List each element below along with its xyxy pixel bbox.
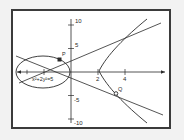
tangent-line-1 <box>16 56 163 115</box>
point-P-marker <box>58 58 62 62</box>
x-tick-label-4: 4 <box>123 76 127 82</box>
x-axis-arrow <box>161 70 165 74</box>
y-tick-label-minus10: -10 <box>74 120 83 126</box>
point-Q-marker <box>114 92 118 96</box>
y-tick-label-5: 5 <box>75 42 79 48</box>
plot-frame: 10 5 -5 -10 2 4 x²+2y²=5 P Q <box>11 9 171 129</box>
axes-group <box>17 19 165 123</box>
x-tick-label-2: 2 <box>96 76 100 82</box>
ellipse-equation-label: x²+2y²=5 <box>32 76 53 82</box>
figure-container: 10 5 -5 -10 2 4 x²+2y²=5 P Q <box>0 0 184 140</box>
x-axis-arrow-left <box>17 70 21 74</box>
parabola-curve <box>99 19 147 123</box>
point-Q-label: Q <box>118 86 123 92</box>
y-tick-label-10: 10 <box>75 18 82 24</box>
secant-line-2 <box>19 23 161 83</box>
point-P-label: P <box>62 51 66 57</box>
graph-canvas: 10 5 -5 -10 2 4 x²+2y²=5 P Q <box>13 11 169 127</box>
y-tick-label-minus5: -5 <box>74 97 80 103</box>
